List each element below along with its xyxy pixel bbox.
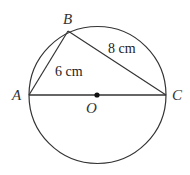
label-a: A	[11, 87, 22, 103]
segment-ab	[29, 31, 68, 95]
center-point-o	[94, 92, 99, 97]
label-o: O	[86, 100, 97, 116]
label-c: C	[172, 87, 183, 103]
length-ab: 6 cm	[55, 64, 83, 79]
label-b: B	[63, 11, 72, 27]
geometry-diagram: B A C O 6 cm 8 cm	[0, 0, 190, 175]
length-bc: 8 cm	[108, 41, 136, 56]
